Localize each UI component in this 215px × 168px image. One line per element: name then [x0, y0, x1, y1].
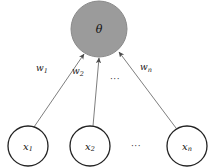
input-node-x1: x1 [8, 126, 48, 166]
weights-ellipsis: ··· [110, 74, 120, 84]
edge-group [34, 52, 176, 128]
neuron-diagram-canvas: θ x1 x2 xn w1 w2 wn ··· ··· [0, 0, 215, 168]
input-node-xn: xn [167, 126, 207, 166]
neuron-diagram: θ x1 x2 xn w1 w2 wn ··· ··· [0, 0, 215, 168]
weight-label-w1: w1 [36, 63, 48, 75]
weight-label-wn: wn [140, 62, 152, 74]
input-node-x2: x2 [70, 126, 110, 166]
weight-label-w2: w2 [72, 66, 84, 78]
output-node-theta: θ [71, 1, 127, 57]
theta-label: θ [96, 23, 103, 36]
inputs-ellipsis: ··· [131, 141, 141, 151]
edge-x2-theta [93, 58, 99, 126]
